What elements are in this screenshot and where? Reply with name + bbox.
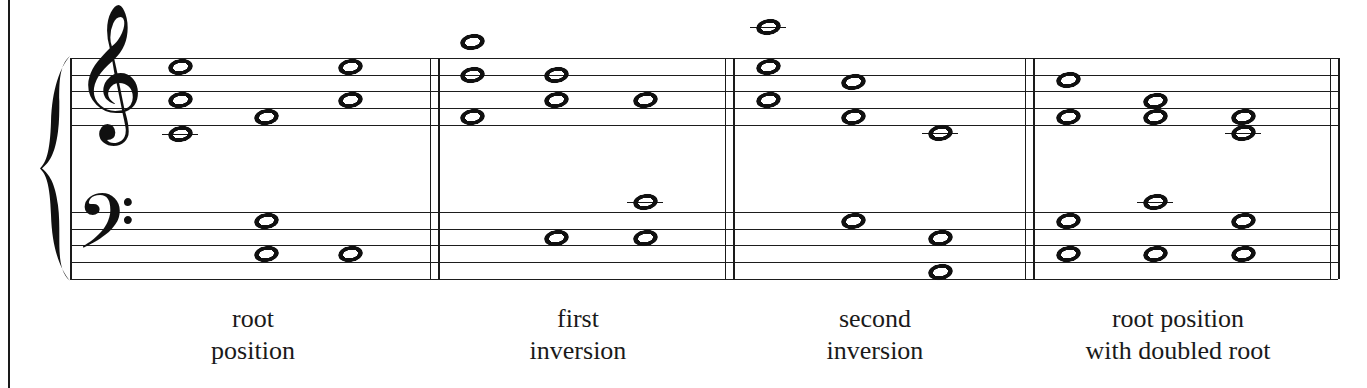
barline-measure-3-end (1025, 58, 1026, 279)
note-head (756, 92, 781, 108)
barline-measure-1-end (430, 58, 431, 279)
staff-line-bass (70, 262, 1338, 263)
staff-line-treble (70, 75, 1338, 76)
note-head (544, 230, 569, 246)
note-head (928, 230, 953, 246)
note-head (633, 194, 658, 210)
note-head (1231, 246, 1256, 262)
note-head (1231, 213, 1256, 229)
note-head (460, 109, 485, 125)
staff-line-bass (70, 279, 1338, 280)
note-head (1143, 246, 1168, 262)
note-head (928, 264, 953, 280)
note-head (1231, 109, 1256, 125)
note-head (254, 246, 279, 262)
note-head (1143, 109, 1168, 125)
barline-measure-1-end (438, 58, 440, 279)
note-head (633, 92, 658, 108)
note-head (841, 109, 866, 125)
treble-clef-icon: 𝄞 (74, 12, 144, 130)
note-head (1143, 194, 1168, 210)
note-head (254, 109, 279, 125)
note-head (544, 92, 569, 108)
note-head (1231, 125, 1256, 141)
staff-line-treble (70, 58, 1338, 59)
note-head (338, 92, 363, 108)
system-brace (40, 54, 74, 283)
note-head (1143, 93, 1168, 109)
note-head (338, 246, 363, 262)
barline-measure-2-end (725, 58, 726, 279)
barline-score-end (1330, 58, 1331, 279)
note-head (756, 59, 781, 75)
note-head (1056, 246, 1081, 262)
caption-root-doubled: root positionwith doubled root (978, 303, 1367, 366)
caption-line: root position (978, 303, 1367, 335)
note-head (338, 59, 363, 75)
barline-measure-2-end (733, 58, 735, 279)
note-head (168, 59, 193, 75)
note-head (254, 213, 279, 229)
bass-clef-icon: 𝄢 (76, 186, 135, 278)
note-head (460, 34, 485, 50)
note-head (841, 213, 866, 229)
note-head (168, 126, 193, 142)
note-head (1056, 72, 1081, 88)
note-head (633, 230, 658, 246)
caption-line: with doubled root (978, 335, 1367, 367)
note-head (928, 125, 953, 141)
barline-measure-3-end (1033, 58, 1035, 279)
note-head (1056, 109, 1081, 125)
note-head (841, 74, 866, 90)
barline-score-end (1338, 58, 1340, 279)
note-head (1056, 213, 1081, 229)
note-head (544, 67, 569, 83)
note-head (756, 19, 781, 35)
note-head (460, 67, 485, 83)
note-head (168, 92, 193, 108)
